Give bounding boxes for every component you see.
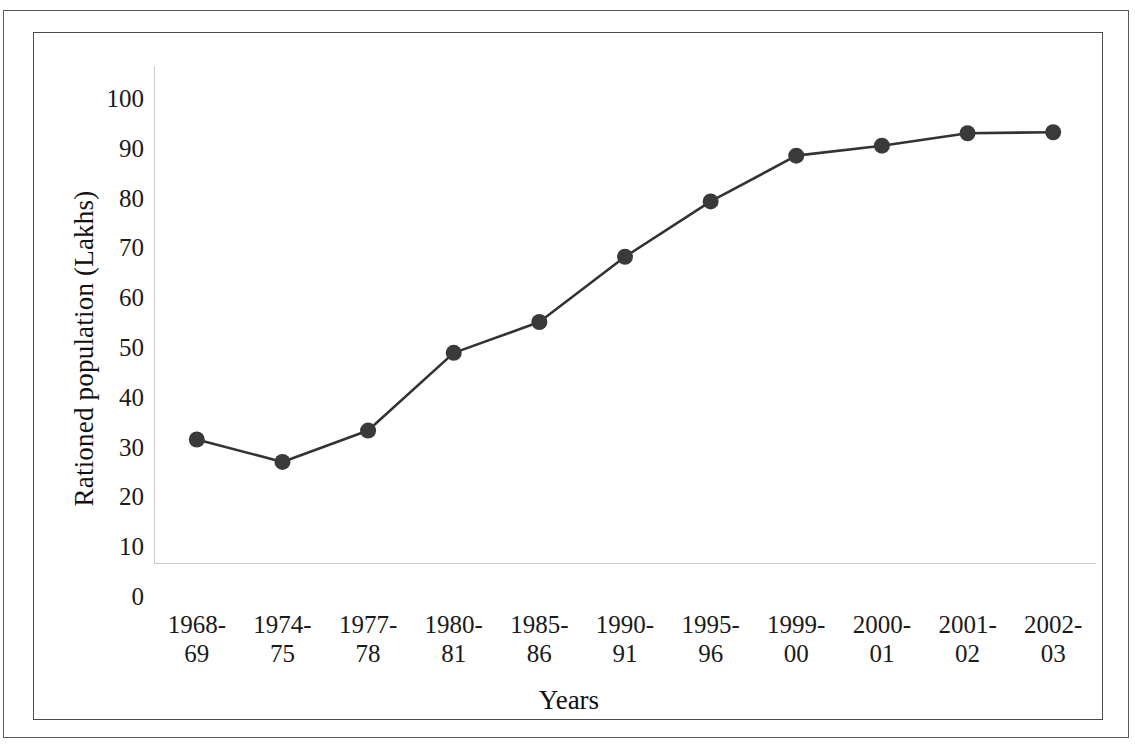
data-line [197,132,1053,462]
chart-frame: Rationed population (Lakhs) 010203040506… [33,32,1103,720]
x-axis-title: Years [34,685,1104,716]
y-axis-tick-labels: 0102030405060708090100 [69,98,144,596]
y-tick-label: 80 [84,185,144,210]
data-point-marker [788,148,804,164]
data-point-marker [446,345,462,361]
y-tick-label: 90 [84,135,144,160]
y-tick-label: 20 [84,484,144,509]
data-point-marker [703,193,719,209]
x-tick-label-line2: 03 [993,640,1113,669]
y-tick-label: 40 [84,384,144,409]
x-tick-label: 2002-03 [993,611,1113,669]
data-point-marker [960,125,976,141]
data-point-marker [274,454,290,470]
plot-area [154,66,1096,564]
x-tick-label-line1: 2002- [993,611,1113,640]
y-tick-label: 100 [84,86,144,111]
y-tick-label: 30 [84,434,144,459]
data-point-marker [531,314,547,330]
x-axis-tick-labels: 1968-691974-751977-781980-811985-861990-… [154,611,1096,683]
y-tick-label: 0 [84,584,144,609]
line-chart-svg [154,66,1096,564]
axis-lines [154,66,1096,564]
data-point-marker [360,423,376,439]
data-point-marker [874,138,890,154]
data-point-marker [1045,124,1061,140]
data-point-markers [189,124,1061,470]
data-point-marker [189,432,205,448]
axis-tick-marks [154,66,1096,564]
y-tick-label: 60 [84,285,144,310]
y-tick-label: 50 [84,335,144,360]
y-tick-label: 70 [84,235,144,260]
y-tick-label: 10 [84,534,144,559]
data-point-marker [617,249,633,265]
